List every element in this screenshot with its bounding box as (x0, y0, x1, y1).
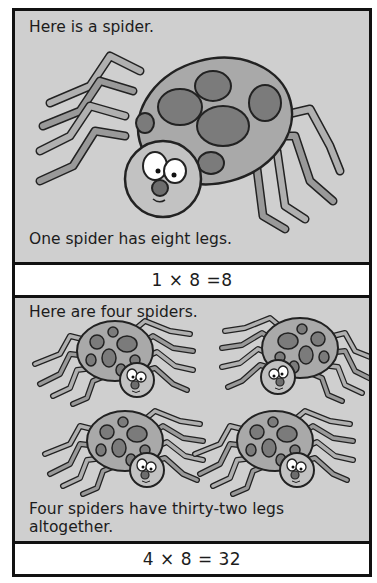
spider-icon (222, 318, 369, 401)
spider-icon (45, 411, 203, 494)
worksheet-frame: Here is a spider. (12, 8, 372, 577)
formula-four: 4 × 8 = 32 (15, 541, 369, 574)
panel-caption-line2: altogether. (29, 519, 113, 536)
panel-four-spiders: Here are four spiders. (15, 298, 369, 541)
panel-caption: One spider has eight legs. (29, 231, 232, 248)
panel-caption-line1: Four spiders have thirty-two legs (29, 501, 284, 518)
panel-one-spider: Here is a spider. (15, 11, 369, 262)
spider-icon (35, 321, 193, 404)
formula-one: 1 × 8 =8 (15, 262, 369, 298)
spider-icon (15, 11, 369, 262)
spider-icon (195, 411, 353, 494)
